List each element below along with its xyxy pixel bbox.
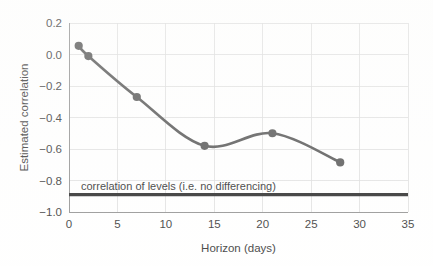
levels-reference-label: correlation of levels (i.e. no differenc…: [81, 180, 276, 192]
x-tick-label: 5: [114, 218, 120, 230]
y-axis-title: Estimated correlation: [18, 63, 30, 171]
data-point-marker: [201, 142, 209, 150]
y-tick-label: −0.6: [39, 143, 62, 155]
chart-figure: 0.20.0−0.2−0.4−0.6−0.8−1.0 0510152025303…: [0, 0, 433, 266]
y-tick-label: 0.0: [46, 49, 62, 61]
x-axis-title: Horizon (days): [201, 242, 276, 254]
x-tick-label: 20: [256, 218, 269, 230]
x-tick-label: 10: [159, 218, 172, 230]
line-chart: 0.20.0−0.2−0.4−0.6−0.8−1.0 0510152025303…: [0, 0, 433, 266]
y-tick-label: −1.0: [39, 206, 62, 218]
data-point-marker: [133, 93, 141, 101]
x-tick-label: 30: [353, 218, 366, 230]
data-point-marker: [84, 52, 92, 60]
data-point-marker: [75, 42, 83, 50]
x-tick-label: 15: [208, 218, 221, 230]
x-tick-label: 35: [402, 218, 415, 230]
y-tick-label: −0.2: [39, 80, 62, 92]
x-tick-label: 25: [305, 218, 318, 230]
y-tick-label: −0.4: [39, 112, 62, 124]
data-point-marker: [268, 129, 276, 137]
y-tick-label: −0.8: [39, 175, 62, 187]
data-point-marker: [336, 158, 344, 166]
x-tick-label: 0: [66, 218, 72, 230]
y-tick-label: 0.2: [46, 17, 62, 29]
